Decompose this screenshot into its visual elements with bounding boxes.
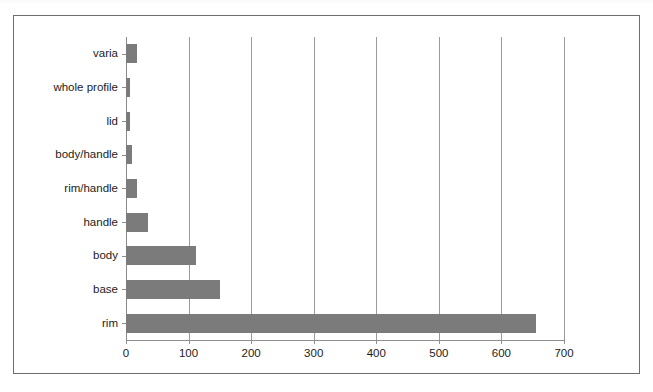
bar-row: whole profile: [126, 71, 564, 105]
bar-whole-profile: [126, 78, 130, 97]
x-axis-tick-label: 600: [492, 347, 511, 359]
bar-row: handle: [126, 205, 564, 239]
scan-edge-artifact: [0, 0, 653, 3]
x-axis-tick: [564, 340, 565, 344]
x-axis-tick-label: 100: [179, 347, 198, 359]
gridline-700: [564, 37, 565, 340]
category-label: varia: [93, 44, 126, 63]
bar-row: body: [126, 239, 564, 273]
x-axis-tick: [439, 340, 440, 344]
bar-handle: [126, 213, 148, 232]
bar-varia: [126, 44, 137, 63]
bar-body: [126, 246, 196, 265]
category-label: rim/handle: [64, 179, 126, 198]
x-axis-tick: [376, 340, 377, 344]
category-label: lid: [106, 112, 126, 131]
bar-lid: [126, 112, 130, 131]
bar-row: rim: [126, 306, 564, 340]
x-axis-baseline: [126, 340, 564, 341]
bar-row: rim/handle: [126, 172, 564, 206]
bar-body-handle: [126, 145, 132, 164]
x-axis-tick: [251, 340, 252, 344]
bar-row: varia: [126, 37, 564, 71]
x-axis-tick-label: 400: [367, 347, 386, 359]
x-axis-tick-label: 300: [304, 347, 323, 359]
x-axis-tick: [126, 340, 127, 344]
bar-rim-handle: [126, 179, 137, 198]
x-axis-tick: [189, 340, 190, 344]
x-axis-tick-label: 500: [429, 347, 448, 359]
chart-frame-border: rimbasebodyhandlerim/handlebody/handleli…: [13, 15, 640, 374]
plot-area: rimbasebodyhandlerim/handlebody/handleli…: [126, 37, 564, 340]
bar-row: lid: [126, 104, 564, 138]
bar-rim: [126, 314, 536, 333]
category-label: body/handle: [55, 145, 126, 164]
category-label: rim: [102, 314, 126, 333]
x-axis-tick-label: 200: [242, 347, 261, 359]
x-axis-tick-label: 0: [123, 347, 129, 359]
x-axis-tick: [501, 340, 502, 344]
bar-row: base: [126, 273, 564, 307]
category-label: whole profile: [53, 78, 126, 97]
category-label: handle: [83, 213, 126, 232]
x-axis-tick: [314, 340, 315, 344]
chart-page: rimbasebodyhandlerim/handlebody/handleli…: [0, 0, 653, 392]
x-axis-tick-label: 700: [554, 347, 573, 359]
category-label: body: [93, 246, 126, 265]
bar-base: [126, 280, 220, 299]
category-label: base: [93, 280, 126, 299]
bar-row: body/handle: [126, 138, 564, 172]
